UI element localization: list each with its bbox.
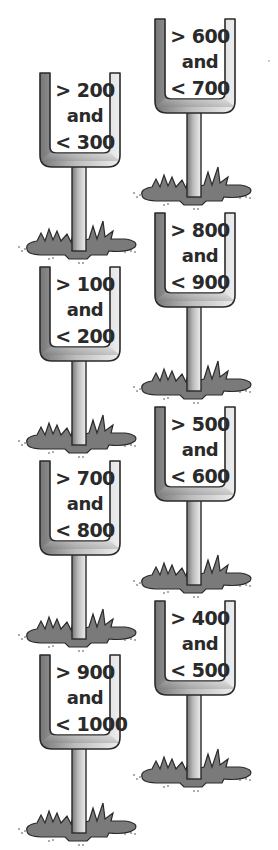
- range-label: > 800 and < 900: [170, 217, 230, 295]
- goalpost-card: > 200 and < 300: [15, 71, 145, 271]
- goalpost-card: > 500 and < 600: [130, 405, 260, 605]
- goalpost-card: > 600 and < 700: [130, 17, 260, 217]
- range-label: > 600 and < 700: [170, 23, 230, 101]
- goalpost-card: > 800 and < 900: [130, 211, 260, 411]
- goalpost-card: > 900 and < 1000: [15, 653, 145, 850]
- range-label: > 700 and < 800: [55, 465, 115, 543]
- range-label: > 200 and < 300: [55, 77, 115, 155]
- goalpost-card: > 400 and < 500: [130, 599, 260, 799]
- goalpost-card: > 100 and < 200: [15, 265, 145, 465]
- range-label: > 500 and < 600: [170, 411, 230, 489]
- goalpost-card: > 700 and < 800: [15, 459, 145, 659]
- range-label: > 900 and < 1000: [55, 659, 115, 737]
- range-label: > 100 and < 200: [55, 271, 115, 349]
- range-label: > 400 and < 500: [170, 605, 230, 683]
- stray-mark: [268, 60, 270, 62]
